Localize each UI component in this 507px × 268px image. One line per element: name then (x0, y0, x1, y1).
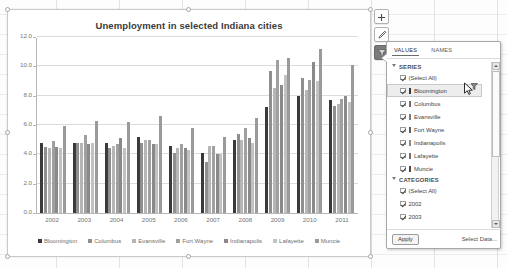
filter-list-item[interactable]: (Select All) (387, 71, 486, 84)
filter-list-item[interactable]: 2002 (387, 197, 486, 210)
bar[interactable] (159, 116, 162, 213)
bar[interactable] (248, 138, 251, 213)
bar[interactable] (73, 143, 76, 213)
bar[interactable] (308, 80, 311, 213)
legend-item[interactable]: Indianapolis (224, 238, 262, 244)
checkbox[interactable] (400, 188, 406, 194)
filter-list-item[interactable]: Bloomington (387, 84, 482, 97)
bar-group[interactable] (294, 38, 326, 213)
bar[interactable] (40, 143, 43, 213)
checkbox[interactable] (400, 114, 406, 120)
bar[interactable] (301, 78, 304, 213)
bar[interactable] (87, 144, 90, 213)
bar[interactable] (244, 128, 247, 213)
filter-list-item[interactable]: Muncie (387, 162, 486, 175)
resize-handle-bottom-left[interactable] (5, 254, 10, 259)
bar[interactable] (223, 137, 226, 213)
x-axis-labels[interactable]: 2002200320042005200620072008200920102011 (36, 216, 358, 223)
bar[interactable] (119, 138, 122, 213)
checkbox[interactable] (400, 75, 406, 81)
resize-handle-top-center[interactable] (186, 7, 191, 12)
bar[interactable] (140, 143, 143, 213)
filter-list-item[interactable]: Fort Wayne (387, 123, 486, 136)
bar[interactable] (255, 118, 258, 213)
bar[interactable] (144, 140, 147, 213)
chart-object[interactable]: Unemployment in selected Indiana cities … (7, 9, 371, 257)
bar[interactable] (44, 147, 47, 213)
bar[interactable] (269, 71, 272, 213)
bar[interactable] (348, 102, 351, 213)
bar[interactable] (233, 140, 236, 213)
legend-item[interactable]: Lafayette (273, 238, 304, 244)
chart-title[interactable]: Unemployment in selected Indiana cities (8, 20, 370, 31)
bar[interactable] (284, 75, 287, 213)
bar[interactable] (55, 147, 58, 213)
filter-list-item[interactable]: Columbus (387, 97, 486, 110)
bar[interactable] (237, 134, 240, 213)
filter-list-item[interactable]: Lafayette (387, 149, 486, 162)
pane-body[interactable]: SERIES(Select All)BloomingtonColumbusEva… (387, 59, 502, 231)
scroll-down-button[interactable] (492, 220, 500, 228)
bar[interactable] (201, 153, 204, 213)
bar[interactable] (76, 143, 79, 213)
chevron-down-icon[interactable] (392, 177, 396, 182)
chart-styles-button[interactable] (374, 27, 389, 42)
bar[interactable] (112, 146, 115, 213)
bar[interactable] (105, 143, 108, 213)
bar[interactable] (344, 96, 347, 213)
bar[interactable] (123, 148, 126, 213)
bar[interactable] (280, 85, 283, 213)
bar[interactable] (219, 154, 222, 213)
bar-group[interactable] (133, 38, 165, 213)
pane-scrollbar[interactable] (491, 62, 499, 228)
scrollbar-thumb[interactable] (492, 71, 500, 157)
bar[interactable] (173, 153, 176, 213)
bar[interactable] (95, 121, 98, 213)
chart-filters-pane[interactable]: VALUESNAMES SERIES(Select All)Bloomingto… (386, 41, 501, 249)
chart-legend[interactable]: BloomingtonColumbusEvansvilleFort WayneI… (8, 238, 370, 244)
bar[interactable] (169, 146, 172, 213)
bar-group[interactable] (165, 38, 197, 213)
checkbox[interactable] (400, 166, 406, 172)
bar[interactable] (80, 143, 83, 213)
pane-tab-strip[interactable]: VALUESNAMES (387, 42, 500, 59)
bar[interactable] (180, 144, 183, 213)
bar[interactable] (84, 135, 87, 213)
bar[interactable] (333, 106, 336, 213)
bar[interactable] (108, 148, 111, 213)
bar[interactable] (137, 137, 140, 213)
scroll-up-button[interactable] (492, 62, 500, 70)
bar-group[interactable] (262, 38, 294, 213)
legend-item[interactable]: Muncie (315, 238, 340, 244)
resize-handle-middle-right[interactable] (368, 130, 373, 135)
legend-item[interactable]: Columbus (88, 238, 121, 244)
bar[interactable] (337, 104, 340, 213)
bar[interactable] (287, 58, 290, 213)
bar[interactable] (52, 141, 55, 213)
legend-item[interactable]: Evansville (132, 238, 165, 244)
resize-handle-top-right[interactable] (368, 7, 373, 12)
bar[interactable] (265, 107, 268, 213)
resize-handle-bottom-right[interactable] (368, 254, 373, 259)
bar-group[interactable] (326, 38, 358, 213)
checkbox[interactable] (400, 201, 406, 207)
bar[interactable] (152, 144, 155, 213)
filter-list-item[interactable]: Indianapolis (387, 136, 486, 149)
chart-elements-button[interactable] (374, 9, 389, 24)
bar[interactable] (176, 148, 179, 213)
section-header-categories[interactable]: CATEGORIES (387, 175, 486, 184)
bar[interactable] (297, 96, 300, 213)
bar[interactable] (127, 122, 130, 213)
bar[interactable] (191, 128, 194, 213)
checkbox[interactable] (400, 88, 406, 94)
select-data-link[interactable]: Select Data... (462, 236, 497, 242)
filter-list-item[interactable]: (Select All) (387, 184, 486, 197)
bar[interactable] (329, 100, 332, 213)
bar[interactable] (116, 144, 119, 213)
section-header-series[interactable]: SERIES (387, 62, 486, 71)
bar-group[interactable] (37, 38, 69, 213)
filter-list[interactable]: SERIES(Select All)BloomingtonColumbusEva… (387, 59, 486, 231)
bar[interactable] (316, 81, 319, 213)
bars-layer[interactable] (37, 38, 358, 213)
checkbox[interactable] (400, 127, 406, 133)
